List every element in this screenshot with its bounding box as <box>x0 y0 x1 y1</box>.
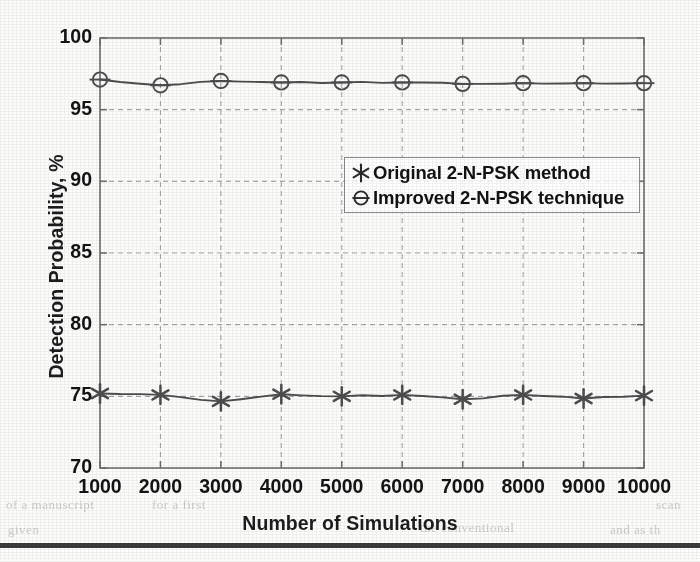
legend-entry-improved: Improved 2-N-PSK technique <box>349 185 624 211</box>
legend-label-original: Original 2-N-PSK method <box>373 162 591 184</box>
data-point <box>150 78 171 92</box>
y-tick-label-100: 100 <box>18 25 92 48</box>
page-bottom-rule <box>0 543 700 548</box>
circle-line-marker-icon <box>349 186 373 210</box>
data-series-layer <box>90 72 655 410</box>
legend: Original 2-N-PSK method Improved 2-N-PSK… <box>344 157 640 213</box>
asterisk-marker-icon <box>349 161 373 185</box>
legend-entry-original: Original 2-N-PSK method <box>349 160 591 186</box>
legend-label-improved: Improved 2-N-PSK technique <box>373 187 624 209</box>
scanned-figure: of a manuscript for a first scan given t… <box>0 0 700 562</box>
gridlines <box>100 38 644 468</box>
x-tick-label-10000: 10000 <box>597 475 691 498</box>
x-axis-title: Number of Simulations <box>0 512 700 535</box>
y-axis-title: Detection Probability, % <box>45 102 68 432</box>
